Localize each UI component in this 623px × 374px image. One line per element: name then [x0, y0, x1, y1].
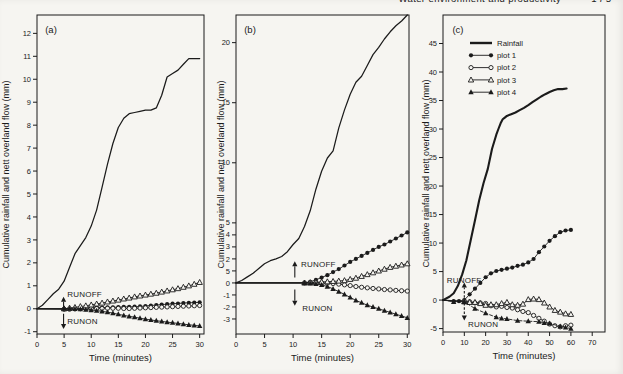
y-tick-label: 4: [226, 230, 230, 239]
y-tick-label: 3: [27, 236, 31, 245]
series-plot-1-marker: [468, 292, 472, 296]
series-plot-2-marker: [154, 305, 158, 309]
series-rainfall-line: [37, 59, 200, 309]
x-tick-label: 5: [262, 340, 266, 349]
y-tick-label: 2: [226, 255, 230, 264]
series-plot-2-marker: [360, 285, 364, 289]
series-plot-1-marker: [500, 268, 504, 272]
y-tick-label: 40: [429, 68, 437, 77]
y-tick-label: -2: [223, 303, 230, 312]
series-plot-1-marker: [569, 228, 573, 232]
runoff-label: RUNOFF: [67, 290, 102, 299]
x-tick-label: 10: [87, 340, 95, 349]
y-tick-label: 0: [226, 279, 230, 288]
series-plot-2-marker: [521, 309, 525, 313]
x-tick-label: 20: [346, 340, 354, 349]
runon-label: RUNON: [67, 317, 97, 326]
x-tick-label: 10: [289, 340, 297, 349]
y-tick-label: 12: [23, 29, 31, 38]
x-tick-label: 20: [481, 338, 489, 347]
runoff-label: RUNOFF: [301, 260, 336, 269]
series-plot-1-marker: [371, 248, 375, 252]
legend-item: plot 3: [468, 76, 516, 85]
series-plot-1-marker: [354, 257, 358, 261]
runon-arrowhead: [462, 316, 467, 321]
series-plot-2-marker: [348, 283, 352, 287]
series-plot-3-marker: [197, 279, 202, 284]
legend-marker-filled-circle: [469, 53, 473, 57]
legend-marker-filled-circle: [489, 53, 493, 57]
series-plot-1-marker: [348, 260, 352, 264]
series-plot-3-marker: [531, 296, 536, 301]
series-plot-2-marker: [388, 288, 392, 292]
series-plot-1-marker: [558, 230, 562, 234]
x-tick-label: 60: [567, 338, 575, 347]
series-plot-2-marker: [127, 306, 131, 310]
y-tick-label: 4: [27, 213, 31, 222]
series-plot-1-marker: [360, 254, 364, 258]
x-axis-label: Time (minutes): [291, 352, 354, 363]
series-plot-2-marker: [149, 306, 153, 310]
series-plot-2-marker: [192, 304, 196, 308]
chart-b: 051015202530-3-2-1052345101520RUNOFFRUNO…: [215, 0, 420, 374]
series-plot-2-marker: [132, 306, 136, 310]
y-tick-label: 45: [429, 39, 437, 48]
series-plot-1-marker: [342, 263, 346, 267]
series-plot-1-marker: [388, 239, 392, 243]
x-tick-label: 30: [403, 340, 411, 349]
series-plot-3-marker: [504, 299, 509, 304]
series-plot-1-marker: [377, 245, 381, 249]
series-rainfall-line: [443, 89, 567, 301]
series-plot-2-marker: [181, 304, 185, 308]
x-tick-label: 30: [503, 338, 511, 347]
chart-a: 051015202530-10123456789101112RUNOFFRUNO…: [0, 0, 215, 374]
series-plot-2-marker: [176, 304, 180, 308]
series-plot-1-line: [443, 230, 571, 301]
x-tick-label: 25: [168, 340, 176, 349]
y-tick-label: 6: [27, 167, 31, 176]
series-plot-1-marker: [542, 244, 546, 248]
y-tick-label: 5: [226, 267, 230, 276]
y-tick-label: 8: [27, 121, 31, 130]
series-plot-4-marker: [353, 297, 358, 302]
series-plot-2-marker: [516, 308, 520, 312]
series-plot-1-marker: [365, 251, 369, 255]
runon-label: RUNON: [302, 304, 332, 313]
runoff-arrowhead: [292, 261, 297, 266]
series-plot-1-marker: [473, 287, 477, 291]
y-tick-label: 2: [27, 258, 31, 267]
series-plot-2-marker: [377, 287, 381, 291]
legend-item-label: plot 3: [497, 76, 516, 85]
y-axis-label: Cumulative rainfall and nett overland fl…: [216, 80, 226, 268]
legend: Rainfallplot 1plot 2plot 3plot 4: [468, 39, 523, 97]
x-tick-label: 0: [441, 338, 445, 347]
panel-label: (b): [244, 24, 256, 35]
series-plot-2-marker: [143, 306, 147, 310]
runoff-label: RUNOFF: [447, 276, 482, 285]
series-plot-3-marker: [547, 304, 552, 309]
series-plot-1-marker: [331, 270, 335, 274]
series-plot-4-marker: [347, 294, 352, 299]
series-plot-4-marker: [483, 310, 488, 315]
y-tick-label: -1: [223, 291, 230, 300]
series-plot-1-line: [236, 233, 407, 283]
series-plot-1-marker: [337, 267, 341, 271]
panel-label: (c): [452, 24, 463, 35]
series-plot-1-marker: [537, 250, 541, 254]
panel-a: 051015202530-10123456789101112RUNOFFRUNO…: [0, 0, 215, 374]
series-plot-2-marker: [526, 311, 530, 315]
y-tick-label: 5: [226, 218, 230, 227]
legend-item-label: plot 4: [497, 88, 517, 97]
series-plot-4-line: [37, 309, 200, 326]
series-plot-3-marker: [552, 307, 557, 312]
series-plot-1-marker: [325, 273, 329, 277]
series-plot-2-marker: [505, 305, 509, 309]
series-plot-2-marker: [187, 304, 191, 308]
x-tick-label: 5: [62, 340, 66, 349]
series-plot-2-marker: [382, 287, 386, 291]
scanned-figure-page: Water environment and productivity175 05…: [0, 0, 623, 374]
series-plot-2-marker: [399, 289, 403, 293]
runon-arrowhead: [61, 324, 66, 329]
series-plot-2-marker: [394, 288, 398, 292]
plot-frame: [37, 15, 204, 334]
